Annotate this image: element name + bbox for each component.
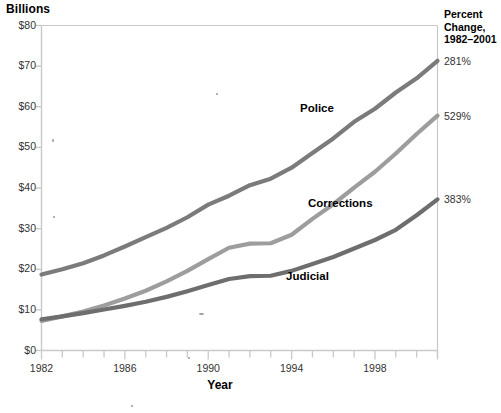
y-tick-label: $40 — [0, 181, 36, 193]
y-tick-label: $50 — [0, 140, 36, 152]
x-tick-label: 1986 — [105, 362, 145, 374]
percent-change-corrections: 529% — [444, 110, 471, 122]
expenditure-line-chart: Billions Percent Change, 1982–2001 $0$10… — [0, 0, 501, 413]
x-tick-label: 1994 — [272, 362, 312, 374]
scan-speck — [131, 405, 133, 407]
y-tick-label: $30 — [0, 222, 36, 234]
series-layer — [42, 61, 438, 321]
scan-speck — [199, 313, 204, 315]
series-line-corrections — [42, 116, 438, 321]
x-tick-label: 1982 — [22, 362, 62, 374]
percent-change-police: 281% — [444, 55, 471, 67]
scan-speck — [188, 357, 190, 359]
y-tick-label: $70 — [0, 59, 36, 71]
scan-speck — [216, 93, 218, 95]
y-tick-label: $0 — [0, 344, 36, 356]
plot-canvas — [0, 0, 501, 413]
x-tick-label: 1990 — [188, 362, 228, 374]
scan-speck — [52, 139, 54, 142]
y-tick-label: $20 — [0, 262, 36, 274]
series-label-police: Police — [300, 102, 334, 114]
scan-speck — [53, 216, 55, 218]
x-tick-label: 1998 — [355, 362, 395, 374]
y-tick-label: $80 — [0, 19, 36, 31]
y-tick-label: $60 — [0, 100, 36, 112]
percent-change-judicial: 383% — [444, 193, 471, 205]
series-label-corrections: Corrections — [308, 197, 373, 209]
series-line-judicial — [42, 199, 438, 319]
series-label-judicial: Judicial — [286, 270, 329, 282]
x-axis-title: Year — [0, 378, 440, 392]
y-tick-label: $10 — [0, 303, 36, 315]
